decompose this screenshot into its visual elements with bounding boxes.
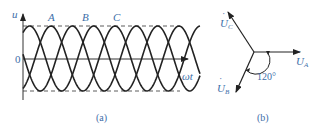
phase-label-c: C: [113, 12, 120, 23]
origin-label: 0: [15, 54, 21, 65]
phasor-ua-label: UA: [296, 56, 308, 69]
angle-label: 120°: [257, 72, 276, 82]
phase-label-a: A: [48, 12, 55, 23]
three-phase-figure: u 0 ωt A B C (a) UC UA UB 120° (b): [0, 0, 317, 130]
caption-b: (b): [257, 113, 269, 123]
phasor-ub-arrow: [236, 52, 254, 92]
y-axis-label: u: [12, 9, 18, 20]
phasor-uc-label: UC: [220, 18, 233, 31]
phasor-ub-label: UB: [217, 83, 229, 96]
x-axis-label: ωt: [182, 71, 193, 82]
caption-a: (a): [96, 113, 107, 123]
phase-label-b: B: [82, 12, 89, 23]
